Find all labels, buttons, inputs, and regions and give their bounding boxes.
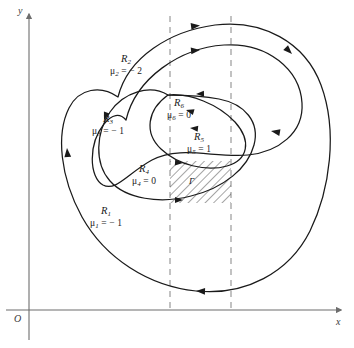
region-label-R6: R6 μ6 = 0	[148, 97, 210, 122]
region-label-R2: R2 μ2 = − 2	[93, 53, 159, 78]
y-axis-label: y	[18, 5, 22, 16]
region-name-R6: R6	[148, 97, 210, 110]
region-label-R5: R5 μ5 = 1	[168, 131, 230, 156]
region-label-R4: R4 μ4 = 0	[113, 163, 175, 188]
arrow-right-outer	[283, 45, 294, 56]
curve-gamma-label: Γ	[189, 176, 194, 186]
winding-number-figure: R2 μ2 = − 2 R3 μ3 = − 1 R6 μ6 = 0 R5 μ5 …	[0, 0, 354, 348]
region-mu-R3: μ3 = − 1	[75, 126, 141, 138]
origin-label: O	[14, 313, 21, 324]
arrow-top-second	[191, 47, 201, 55]
region-mu-R4: μ4 = 0	[113, 176, 175, 188]
region-name-R5: R5	[168, 131, 230, 144]
region-mu-R5: μ5 = 1	[168, 144, 230, 156]
arrow-right-second	[270, 128, 280, 136]
region-label-R1: R1 μ1 = − 1	[73, 205, 139, 230]
region-mu-R6: μ6 = 0	[148, 110, 210, 122]
region-mu-R1: μ1 = − 1	[73, 218, 139, 230]
figure-canvas	[0, 0, 354, 348]
arrow-left-outer	[64, 148, 72, 158]
region-name-R4: R4	[113, 163, 175, 176]
region-name-R3: R3	[75, 113, 141, 126]
region-label-R3: R3 μ3 = − 1	[75, 113, 141, 138]
region-name-R2: R2	[93, 53, 159, 66]
arrow-bottom-outer	[196, 288, 205, 295]
x-axis-label: x	[336, 316, 340, 327]
region-mu-R2: μ2 = − 2	[93, 66, 159, 78]
region-name-R1: R1	[73, 205, 139, 218]
